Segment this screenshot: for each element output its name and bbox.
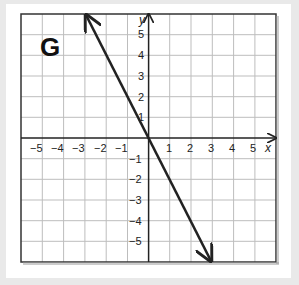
svg-text:3: 3: [208, 142, 214, 154]
svg-text:5: 5: [250, 142, 256, 154]
svg-text:−5: −5: [129, 235, 142, 247]
svg-text:−2: −2: [129, 173, 142, 185]
svg-text:5: 5: [138, 28, 144, 40]
svg-text:4: 4: [138, 49, 144, 61]
svg-text:−4: −4: [51, 142, 64, 154]
svg-text:4: 4: [229, 142, 235, 154]
svg-text:2: 2: [138, 91, 144, 103]
svg-text:2: 2: [187, 142, 193, 154]
svg-text:−1: −1: [129, 153, 142, 165]
svg-text:1: 1: [166, 142, 172, 154]
graph-label: G: [40, 32, 60, 62]
svg-text:−1: −1: [115, 142, 128, 154]
svg-text:−2: −2: [94, 142, 107, 154]
svg-text:−3: −3: [129, 194, 142, 206]
svg-text:−3: −3: [72, 142, 85, 154]
x-axis-label: x: [264, 141, 272, 155]
coordinate-plane: x y −5 −4 −3 −2 −1 1 2 3 4 5 5 4 3 2 1 −…: [0, 0, 299, 285]
y-axis-label: y: [138, 13, 146, 27]
svg-text:3: 3: [138, 70, 144, 82]
svg-text:−4: −4: [129, 215, 142, 227]
svg-text:−5: −5: [30, 142, 43, 154]
